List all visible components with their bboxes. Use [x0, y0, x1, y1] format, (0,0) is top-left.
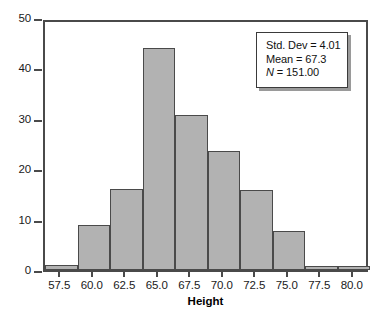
x-tick-mark — [156, 272, 158, 277]
x-tick-label: 65.0 — [139, 279, 175, 291]
y-tick-label: 0 — [25, 264, 31, 276]
x-tick-mark — [253, 272, 255, 277]
histogram-bar — [78, 225, 111, 270]
y-tick-mark — [34, 170, 42, 172]
histogram-figure: 01020304050 57.560.062.565.067.570.072.5… — [0, 0, 378, 327]
stats-n-symbol: N — [266, 66, 274, 78]
histogram-bar — [110, 189, 143, 270]
x-tick-mark — [221, 272, 223, 277]
histogram-bar — [338, 266, 371, 270]
stats-mean: Mean = 67.3 — [266, 53, 340, 67]
y-tick-mark — [34, 120, 42, 122]
y-tick-label: 30 — [18, 113, 31, 125]
x-tick-mark — [188, 272, 190, 277]
x-tick-label: 70.0 — [204, 279, 240, 291]
x-tick-label: 57.5 — [41, 279, 77, 291]
histogram-bar — [175, 115, 208, 270]
y-tick-label: 20 — [18, 163, 31, 175]
y-tick-mark — [34, 19, 42, 21]
x-tick-mark — [123, 272, 125, 277]
stats-std-dev: Std. Dev = 4.01 — [266, 39, 340, 53]
y-tick-mark — [34, 221, 42, 223]
histogram-bar — [143, 48, 176, 270]
histogram-bar — [45, 265, 78, 270]
y-axis: 01020304050 — [0, 0, 43, 327]
x-tick-label: 62.5 — [106, 279, 142, 291]
histogram-bar — [208, 151, 241, 270]
x-tick-label: 67.5 — [171, 279, 207, 291]
stats-n: N = 151.00 — [266, 66, 340, 80]
x-tick-label: 72.5 — [236, 279, 272, 291]
x-tick-mark — [351, 272, 353, 277]
x-axis-title: Height — [43, 295, 368, 307]
x-tick-label: 75.0 — [269, 279, 305, 291]
x-tick-mark — [318, 272, 320, 277]
stats-legend-box: Std. Dev = 4.01 Mean = 67.3 N = 151.00 — [256, 32, 348, 88]
histogram-bar — [273, 231, 306, 270]
x-tick-label: 80.0 — [334, 279, 370, 291]
y-tick-mark — [34, 271, 42, 273]
x-tick-mark — [91, 272, 93, 277]
x-tick-mark — [58, 272, 60, 277]
x-tick-label: 77.5 — [301, 279, 337, 291]
histogram-bar — [305, 266, 338, 270]
y-tick-mark — [34, 69, 42, 71]
stats-n-value: = 151.00 — [274, 66, 319, 78]
y-tick-label: 50 — [18, 12, 31, 24]
x-tick-label: 60.0 — [74, 279, 110, 291]
y-tick-label: 40 — [18, 62, 31, 74]
y-tick-label: 10 — [18, 214, 31, 226]
histogram-bar — [240, 190, 273, 270]
x-tick-mark — [286, 272, 288, 277]
